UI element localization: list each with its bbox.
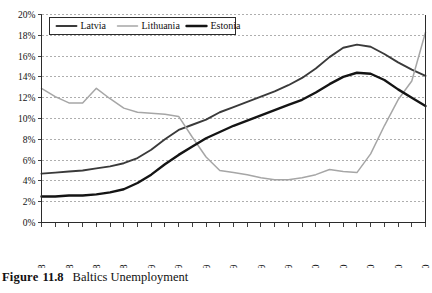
figure-page: 0%2%4%6%8%10%12%14%16%18%20% May-08Jul-0…: [0, 0, 432, 293]
y-axis-ticks: 0%2%4%6%8%10%12%14%16%18%20%: [18, 10, 41, 228]
y-tick-label: 10%: [18, 114, 36, 124]
x-tick-label: Sep-08: [92, 264, 102, 268]
series-line-lithuania: [42, 32, 426, 180]
x-tick-label: May-10: [366, 264, 376, 268]
y-tick-label: 0%: [23, 218, 36, 228]
figure-caption: Figure11.8Baltics Unemployment: [2, 270, 432, 285]
legend-label-lithuania: Lithuania: [142, 20, 181, 31]
y-tick-label: 6%: [23, 156, 36, 166]
x-tick-label: Nov-09: [284, 264, 294, 268]
gridlines: [42, 15, 426, 202]
x-tick-label: Jul-10: [394, 264, 404, 268]
y-tick-label: 2%: [23, 197, 36, 207]
x-tick-label: Jul-09: [229, 264, 239, 268]
chart-legend: LatviaLithuaniaEstonia: [50, 18, 242, 35]
caption-title: Baltics Unemployment: [73, 270, 189, 284]
x-tick-label: Sep-10: [421, 264, 431, 268]
y-tick-label: 12%: [18, 93, 36, 103]
caption-label: Figure: [2, 270, 38, 284]
series-line-latvia: [42, 45, 426, 174]
x-axis-ticks: May-08Jul-08Sep-08Nov-08Jan-09Mar-09May-…: [37, 223, 431, 269]
y-tick-label: 20%: [18, 10, 36, 20]
x-tick-label: May-09: [202, 264, 212, 268]
legend-label-latvia: Latvia: [81, 20, 107, 31]
legend-label-estonia: Estonia: [211, 20, 242, 31]
x-tick-label: Jan-10: [311, 264, 321, 268]
x-tick-label: May-08: [37, 264, 47, 268]
baltics-unemployment-chart: 0%2%4%6%8%10%12%14%16%18%20% May-08Jul-0…: [0, 0, 432, 268]
y-tick-label: 4%: [23, 176, 36, 186]
x-tick-label: Jan-09: [147, 264, 157, 268]
caption-number: 11.8: [42, 270, 63, 284]
y-tick-label: 18%: [18, 31, 36, 41]
y-tick-label: 14%: [18, 72, 36, 82]
x-tick-label: Mar-10: [339, 264, 349, 268]
x-tick-label: Jul-08: [65, 264, 75, 268]
y-tick-label: 16%: [18, 52, 36, 62]
x-tick-label: Nov-08: [119, 264, 129, 268]
y-tick-label: 8%: [23, 135, 36, 145]
x-tick-label: Mar-09: [174, 264, 184, 268]
data-series-group: [42, 32, 426, 196]
x-tick-label: Sep-09: [257, 264, 267, 268]
line-chart-svg: 0%2%4%6%8%10%12%14%16%18%20% May-08Jul-0…: [0, 0, 432, 268]
